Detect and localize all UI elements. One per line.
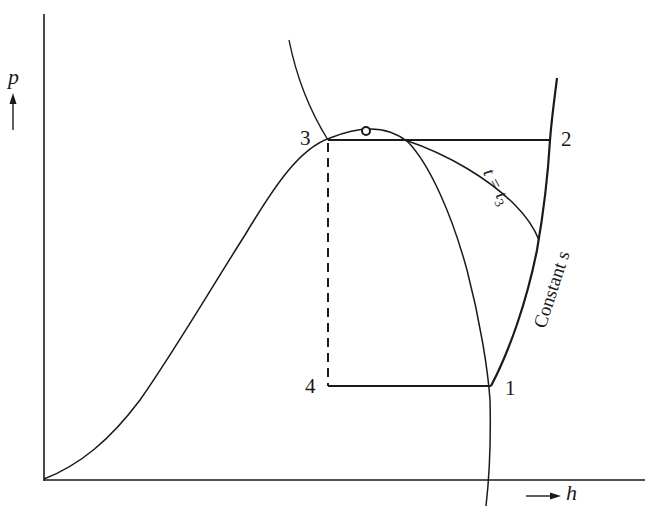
critical-point-icon — [362, 127, 370, 135]
y-axis-label: p — [8, 64, 19, 90]
right-arrow-icon — [526, 493, 561, 500]
point-label-4: 4 — [305, 374, 316, 399]
saturated-liquid-curve — [44, 129, 370, 479]
x-axis-label: h — [566, 480, 577, 506]
point-label-2: 2 — [561, 127, 572, 152]
liquid-isotherm-curve — [289, 40, 328, 140]
saturated-vapor-curve — [370, 129, 490, 506]
point-label-1: 1 — [505, 376, 516, 401]
constant-s-curve — [491, 78, 557, 386]
isotherm-t3-curve — [405, 140, 539, 240]
point-label-3: 3 — [300, 126, 311, 151]
up-arrow-icon — [10, 93, 17, 130]
